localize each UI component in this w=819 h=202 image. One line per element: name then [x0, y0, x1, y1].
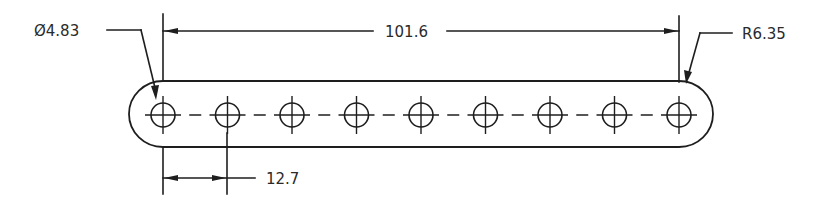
- hole-pitch-dimension: 12.7: [163, 133, 299, 194]
- diameter-leader-diagonal: [141, 30, 156, 92]
- hole-diameter-label: Ø4.83: [34, 22, 79, 40]
- overall-span-dimension: 101.6: [163, 14, 679, 82]
- span-arrowhead-right: [664, 28, 678, 34]
- hole: [145, 96, 181, 134]
- radius-leader-diagonal: [688, 33, 700, 76]
- hole: [661, 96, 697, 134]
- pitch-arrowhead-left: [164, 175, 178, 181]
- hole: [339, 96, 375, 134]
- diameter-leader-arrowhead: [151, 85, 159, 100]
- span-arrowhead-left: [164, 28, 178, 34]
- hole: [403, 96, 439, 134]
- pitch-arrowhead-right: [212, 175, 226, 181]
- end-radius-callout: R6.35: [684, 25, 786, 84]
- hole: [597, 96, 633, 134]
- hole: [274, 96, 310, 134]
- end-radius-label: R6.35: [742, 25, 786, 43]
- technical-drawing: Ø4.83 101.6 R6.35 12.7: [0, 0, 819, 202]
- hole: [468, 96, 504, 134]
- hole: [210, 96, 246, 134]
- holes-group: [145, 96, 697, 134]
- hole: [532, 96, 568, 134]
- span-dimension-label: 101.6: [385, 23, 428, 41]
- hole-pitch-label: 12.7: [266, 170, 299, 188]
